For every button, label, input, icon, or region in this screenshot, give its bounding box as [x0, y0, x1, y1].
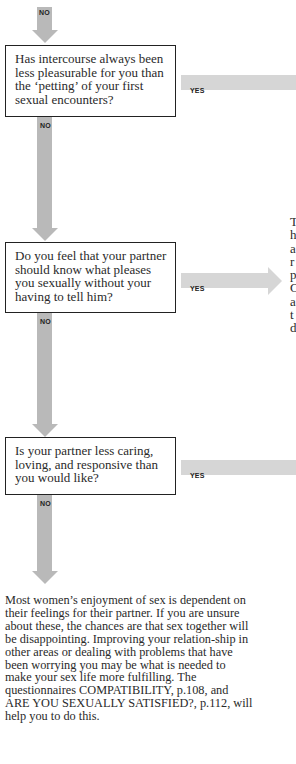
no-label-2: NO — [40, 318, 51, 325]
yes-connector-1: YES — [181, 75, 296, 90]
yes-label-3: YES — [190, 472, 205, 479]
yes-connector-3: YES — [181, 460, 296, 475]
question-box-1: Has intercourse always been less pleasur… — [5, 45, 176, 117]
no-label-3: NO — [40, 500, 51, 507]
no-connector-1 — [37, 117, 52, 229]
side-text-clipped: T h a r p C a t d — [290, 215, 296, 335]
conclusion-text: Most women’s enjoyment of sex is depende… — [5, 594, 255, 723]
arrow-down-icon — [32, 571, 58, 584]
no-connector-2 — [37, 313, 52, 425]
arrow-right-icon — [268, 267, 282, 295]
arrow-down-icon — [32, 30, 58, 43]
connector-top — [37, 18, 52, 30]
yes-connector-2: YES — [181, 273, 268, 288]
question-box-3: Is your partner less caring, loving, and… — [5, 437, 176, 495]
yes-label-2: YES — [190, 285, 205, 292]
question-box-2: Do you feel that your partner should kno… — [5, 242, 176, 313]
no-label-1: NO — [40, 122, 51, 129]
yes-label-1: YES — [190, 87, 205, 94]
arrow-down-icon — [32, 228, 58, 241]
no-label-top: NO — [37, 7, 52, 18]
arrow-down-icon — [32, 424, 58, 437]
